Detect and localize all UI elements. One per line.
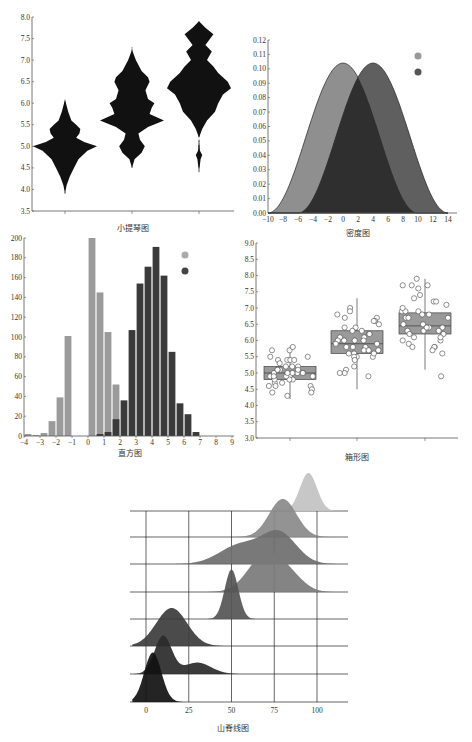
box-data-point <box>285 393 290 398</box>
y-tick-label: 4.5 <box>245 385 255 394</box>
histogram-bar <box>153 247 160 436</box>
x-tick-label: 8 <box>214 438 218 447</box>
histogram-bar <box>121 400 128 436</box>
x-tick-label: 4 <box>150 438 154 447</box>
y-tick-label: 4.5 <box>21 163 31 172</box>
box-data-point <box>409 283 414 288</box>
box-data-point <box>342 370 347 375</box>
box-data-point <box>366 374 371 379</box>
y-tick-label: 5.0 <box>245 369 255 378</box>
x-tick-label: −4 <box>20 438 28 447</box>
x-tick-label: 0 <box>341 215 345 224</box>
box-data-point <box>295 367 300 372</box>
box-data-point <box>359 328 364 333</box>
y-tick-label: 9.0 <box>245 239 255 248</box>
box-data-point <box>352 338 357 343</box>
y-tick-label: 4.0 <box>245 401 255 410</box>
histogram-title: 直方图 <box>118 448 142 458</box>
box-data-point <box>290 370 295 375</box>
x-tick-label: 6 <box>386 215 390 224</box>
histogram-bar <box>89 238 96 436</box>
box-data-point <box>309 390 314 395</box>
box-data-point <box>426 312 431 317</box>
y-tick-label: 0.06 <box>253 122 266 131</box>
box-data-point <box>401 322 406 327</box>
x-tick-label: −1 <box>68 438 76 447</box>
x-tick-label: −2 <box>324 215 332 224</box>
box-data-point <box>300 370 305 375</box>
y-tick-label: 160 <box>11 273 23 282</box>
x-tick-label: 1 <box>102 438 106 447</box>
box-data-point <box>412 296 417 301</box>
box-data-point <box>436 328 441 333</box>
box-data-point <box>344 344 349 349</box>
y-tick-label: 40 <box>15 392 23 401</box>
x-tick-label: −6 <box>294 215 302 224</box>
y-tick-label: 0.11 <box>253 50 266 59</box>
x-tick-label: 14 <box>444 215 452 224</box>
y-tick-label: 120 <box>11 313 23 322</box>
y-tick-label: 0.03 <box>253 165 266 174</box>
legend-marker <box>415 69 422 76</box>
histogram-plot: 020406080100120140160180200−4−3−2−101234… <box>11 234 234 448</box>
y-tick-label: 0.05 <box>253 136 266 145</box>
box-data-point <box>407 331 412 336</box>
histogram-bar <box>185 414 192 436</box>
y-tick-label: 6.0 <box>21 99 31 108</box>
box-data-point <box>273 383 278 388</box>
box-data-point <box>352 357 357 362</box>
box-data-point <box>430 348 435 353</box>
box-data-point <box>342 315 347 320</box>
density-title: 密度图 <box>346 228 370 238</box>
box-data-point <box>283 364 288 369</box>
histogram-bar <box>129 330 136 436</box>
box-data-point <box>400 283 405 288</box>
y-tick-label: 0.07 <box>253 108 266 117</box>
y-tick-label: 4.0 <box>21 185 31 194</box>
y-tick-label: 0.12 <box>253 36 266 45</box>
box-data-point <box>434 299 439 304</box>
box-data-point <box>285 370 290 375</box>
x-tick-label: −3 <box>36 438 44 447</box>
box-data-point <box>424 325 429 330</box>
y-tick-label: 3.5 <box>21 207 31 216</box>
x-tick-label: −2 <box>52 438 60 447</box>
y-tick-label: 6.5 <box>245 320 255 329</box>
box-data-point <box>371 318 376 323</box>
x-tick-label: 75 <box>271 706 279 715</box>
histogram-bar <box>49 421 56 436</box>
box-data-point <box>290 364 295 369</box>
box-data-point <box>305 354 310 359</box>
box-data-point <box>439 374 444 379</box>
y-tick-label: 3.0 <box>245 434 255 443</box>
x-tick-label: 25 <box>185 706 193 715</box>
y-tick-label: 5.0 <box>21 142 31 151</box>
x-tick-label: 0 <box>86 438 90 447</box>
histogram-bar <box>113 419 120 436</box>
y-tick-label: 0.01 <box>253 194 266 203</box>
y-tick-label: 20 <box>15 412 23 421</box>
y-tick-label: 140 <box>11 293 23 302</box>
box-data-point <box>444 302 449 307</box>
box-data-point <box>366 348 371 353</box>
histogram-bar <box>41 433 48 436</box>
x-tick-label: 3 <box>134 438 138 447</box>
box-plot: 3.03.54.04.55.05.56.06.57.07.58.08.59.0 <box>245 239 458 443</box>
histogram-bar <box>97 292 104 436</box>
x-tick-label: 2 <box>118 438 122 447</box>
ridgeline-plot: 0255075100 <box>130 473 348 715</box>
chart-canvas: 3.54.04.55.05.56.06.57.07.58.0 0.000.010… <box>0 0 472 742</box>
box-data-point <box>416 286 421 291</box>
box-data-point <box>266 383 271 388</box>
x-tick-label: −8 <box>279 215 287 224</box>
box-data-point <box>376 348 381 353</box>
x-tick-label: 6 <box>182 438 186 447</box>
x-tick-label: 4 <box>371 215 375 224</box>
box-data-point <box>374 341 379 346</box>
histogram-bar <box>193 432 200 436</box>
box-data-point <box>400 305 405 310</box>
box-data-point <box>438 335 443 340</box>
ridge-area-ridge-7 <box>132 636 337 675</box>
histogram-bar <box>65 336 72 436</box>
x-tick-label: 5 <box>166 438 170 447</box>
